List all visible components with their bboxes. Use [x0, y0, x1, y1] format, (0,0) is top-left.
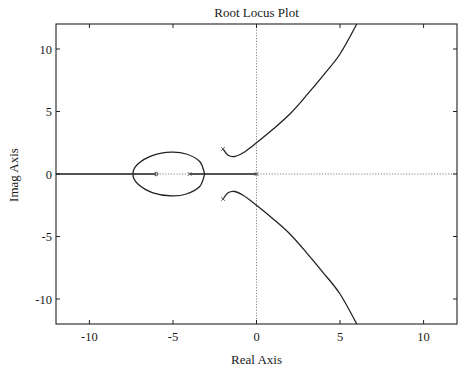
y-tick-label: 10 [40, 43, 53, 57]
y-tick-label: -5 [42, 230, 52, 244]
x-tick-label: -10 [81, 330, 98, 344]
x-tick-label: -5 [168, 330, 178, 344]
locus-branch [223, 191, 357, 324]
locus-branch [223, 24, 357, 157]
y-tick-label: 0 [46, 168, 52, 182]
pole-marker [221, 147, 225, 151]
x-tick-label: 10 [417, 330, 430, 344]
x-tick-label: 0 [253, 330, 259, 344]
x-tick-label: 5 [337, 330, 343, 344]
axis-ticks: -10-50510-10-50510 [35, 24, 457, 344]
y-tick-label: 5 [46, 105, 52, 119]
plot-area: -10-50510-10-50510 [0, 0, 464, 375]
pole-marker [221, 197, 225, 201]
y-tick-label: -10 [35, 293, 52, 307]
